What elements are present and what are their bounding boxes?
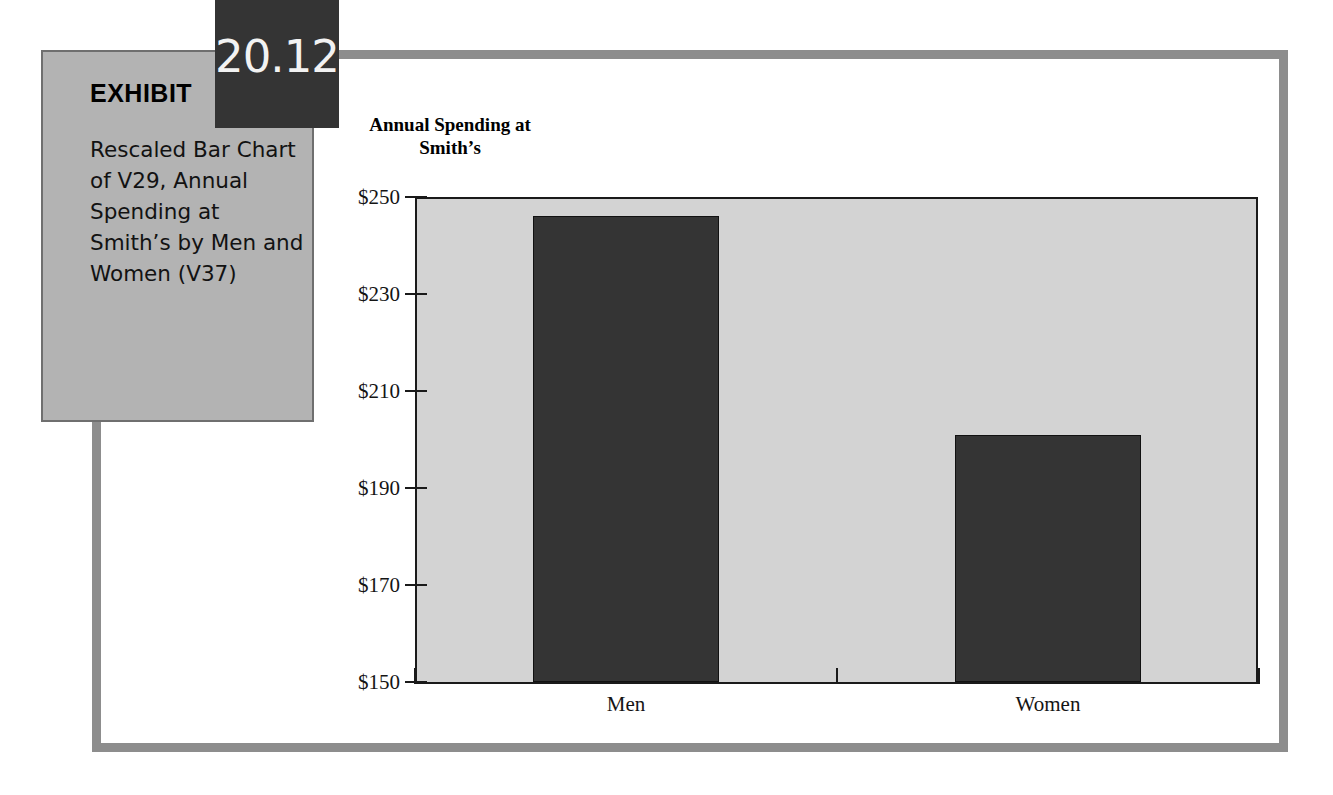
- y-tick-mark-210: [405, 390, 427, 392]
- x-category-label-men: Men: [566, 692, 686, 717]
- y-axis-line: [415, 196, 417, 684]
- x-tick-mark-left-end: [414, 668, 416, 684]
- y-tick-label-230: $230: [330, 282, 400, 307]
- y-tick-mark-230: [405, 293, 427, 295]
- bar-men[interactable]: [533, 216, 719, 682]
- x-tick-mark-divider: [836, 668, 838, 684]
- exhibit-number-text: 20.12: [215, 30, 339, 83]
- y-tick-label-210: $210: [330, 379, 400, 404]
- y-tick-label-190: $190: [330, 476, 400, 501]
- exhibit-word: EXHIBIT: [90, 79, 192, 108]
- x-category-label-women: Women: [988, 692, 1108, 717]
- exhibit-caption: Rescaled Bar Chart of V29, Annual Spendi…: [90, 134, 305, 289]
- y-tick-mark-170: [405, 584, 427, 586]
- y-tick-label-250: $250: [330, 185, 400, 210]
- bar-women[interactable]: [955, 435, 1141, 682]
- y-tick-label-170: $170: [330, 573, 400, 598]
- y-tick-label-150: $150: [330, 670, 400, 695]
- y-tick-mark-190: [405, 487, 427, 489]
- y-tick-mark-250: [405, 196, 427, 198]
- x-tick-mark-right-end: [1258, 668, 1260, 684]
- y-tick-mark-150: [405, 681, 427, 683]
- exhibit-number-box: 20.12: [215, 0, 339, 128]
- chart-title: Annual Spending at Smith’s: [340, 113, 560, 159]
